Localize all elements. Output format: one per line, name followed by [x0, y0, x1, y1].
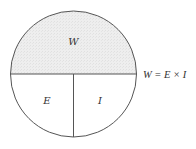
- ohms-power-circle-diagram: W E I W = E × I: [0, 0, 196, 149]
- label-w-power: W: [68, 36, 79, 47]
- formula-label: W = E × I: [143, 69, 187, 80]
- label-e-voltage: E: [42, 95, 51, 106]
